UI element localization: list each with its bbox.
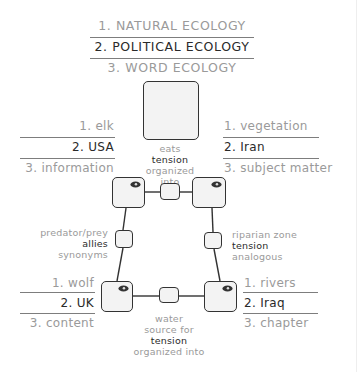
header-item-political-ecology: 2. POLITICAL ECOLOGY	[0, 39, 344, 54]
edge-text: riparian zone	[232, 229, 312, 240]
edge-node-bottom[interactable]	[159, 287, 179, 303]
bottom-left-label-1: 1. wolf	[52, 276, 94, 290]
header-divider	[90, 58, 254, 59]
edge-text: source for	[129, 324, 209, 335]
left-edge-label: predator/prey allies synonyms	[28, 227, 108, 260]
top-right-label-2: 2. Iran	[224, 140, 265, 154]
node-bottom-left[interactable]	[101, 281, 133, 312]
edge-text: analogous	[232, 251, 312, 262]
top-left-label-1: 1. elk	[79, 119, 114, 133]
edge-text: tension	[140, 154, 200, 165]
bottom-left-label-2: 2. UK	[61, 296, 94, 310]
bottom-right-label-1: 1. rivers	[244, 276, 296, 290]
node-top-left[interactable]	[112, 177, 145, 208]
edge-node-right[interactable]	[204, 232, 222, 249]
top-right-label-1: 1. vegetation	[224, 119, 308, 133]
bottom-right-label-3: 3. chapter	[244, 316, 308, 330]
edge-text: predator/prey	[28, 227, 108, 238]
top-left-label-2: 2. USA	[72, 140, 114, 154]
edge-text: allies	[28, 238, 108, 249]
edge-text: organized	[140, 165, 200, 176]
header-item-natural-ecology: 1. NATURAL ECOLOGY	[0, 18, 344, 33]
edge-text: eats	[140, 143, 200, 154]
top-edge-label: eats tension organized into	[140, 143, 200, 187]
node-top-right[interactable]	[192, 177, 226, 208]
edge-text: tension	[232, 240, 312, 251]
edge-text: tension	[129, 335, 209, 346]
label-divider	[223, 137, 319, 138]
label-divider	[223, 158, 319, 159]
label-divider	[243, 313, 318, 314]
label-divider	[20, 313, 95, 314]
edge-node-left[interactable]	[115, 230, 133, 248]
central-node	[143, 81, 199, 140]
right-edge-label: riparian zone tension analogous	[232, 229, 312, 262]
label-divider	[243, 292, 318, 293]
bottom-edge-label: water source for tension organized into	[129, 313, 209, 357]
label-divider	[20, 158, 115, 159]
eye-icon	[211, 181, 222, 188]
edge-text: organized into	[129, 346, 209, 357]
eye-icon	[130, 181, 141, 188]
edge-text: water	[129, 313, 209, 324]
header-divider	[90, 37, 254, 38]
eye-icon	[118, 285, 129, 292]
top-right-label-3: 3. subject matter	[224, 161, 332, 175]
top-left-label-3: 3. information	[25, 161, 114, 175]
edge-text: synonyms	[28, 249, 108, 260]
bottom-right-label-2: 2. Iraq	[244, 296, 285, 310]
header-item-word-ecology: 3. WORD ECOLOGY	[0, 60, 344, 75]
bottom-left-label-3: 3. content	[30, 316, 94, 330]
label-divider	[20, 292, 95, 293]
label-divider	[20, 137, 115, 138]
eye-icon	[222, 285, 233, 292]
node-bottom-right[interactable]	[204, 281, 237, 312]
edge-node-top[interactable]	[160, 183, 180, 200]
